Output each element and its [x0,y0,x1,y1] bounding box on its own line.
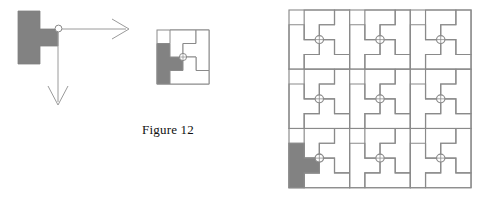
figure-caption-label: Figure 12 [142,121,222,139]
tiling-cell-r2c1 [289,69,350,128]
tiling-cell-r3c2 [350,128,411,187]
exploded-tile-svg [0,0,140,115]
tiling-cell-r1c3 [410,10,471,69]
shaded-prototile-shape [18,11,58,64]
tiling-cell-r2c2 [350,69,411,128]
tiling-cell-r3c3 [410,128,471,187]
tiling-cell-r2c3 [410,69,471,128]
tiling-cell-r1c1 [289,10,350,69]
circle-pivot-icon [55,25,62,32]
tiling-panel [282,4,482,196]
figure-page: Figure 12 [0,0,488,200]
tiling-svg [282,4,482,196]
arrow-right-icon [59,19,129,39]
tiling-cell-r3c1 [289,128,350,187]
exploded-tile-panel [0,0,140,115]
single-tile-panel [150,22,216,88]
single-tile-svg [150,22,216,88]
tiling-cell-r1c2 [350,10,411,69]
figure-caption: Figure 12 [142,121,222,141]
